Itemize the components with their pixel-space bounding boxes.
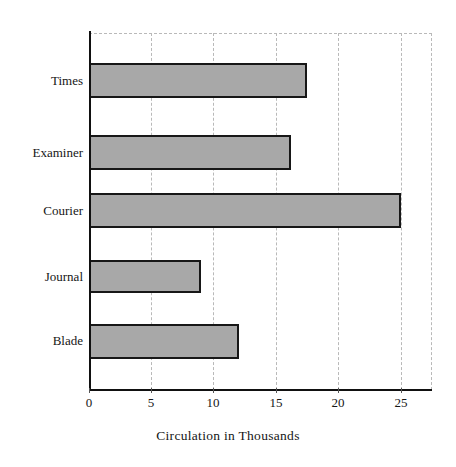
bar-examiner[interactable] <box>89 135 291 170</box>
y-tick-label-courier: Courier <box>3 204 83 217</box>
x-tick-mark-20 <box>338 388 339 393</box>
bar-courier[interactable] <box>89 193 401 228</box>
x-tick-label-0: 0 <box>86 396 93 409</box>
y-tick-label-blade: Blade <box>3 334 83 347</box>
x-tick-mark-0 <box>89 388 90 393</box>
x-tick-mark-15 <box>276 388 277 393</box>
bar-blade[interactable] <box>89 324 239 359</box>
grid-line-25 <box>401 33 402 390</box>
y-tick-label-times: Times <box>3 74 83 87</box>
x-tick-label-10: 10 <box>207 396 220 409</box>
x-tick-label-25: 25 <box>395 396 408 409</box>
x-tick-mark-25 <box>401 388 402 393</box>
x-tick-mark-10 <box>213 388 214 393</box>
x-axis-labels: 0 5 10 15 20 25 <box>0 393 456 417</box>
x-tick-label-15: 15 <box>270 396 283 409</box>
y-tick-label-journal: Journal <box>3 270 83 283</box>
x-axis-title: Circulation in Thousands <box>0 428 456 444</box>
x-tick-mark-5 <box>151 388 152 393</box>
x-axis-line <box>89 389 432 391</box>
grid-line-right <box>431 33 432 390</box>
bar-journal[interactable] <box>89 260 201 293</box>
y-tick-label-examiner: Examiner <box>3 146 83 159</box>
grid-line-top <box>89 33 432 34</box>
x-tick-label-20: 20 <box>332 396 345 409</box>
y-axis-line <box>89 31 91 391</box>
plot-area <box>89 33 432 390</box>
x-tick-label-5: 5 <box>148 396 155 409</box>
bar-chart: Times Examiner Courier Journal Blade 0 5… <box>0 0 456 467</box>
bar-times[interactable] <box>89 63 307 98</box>
